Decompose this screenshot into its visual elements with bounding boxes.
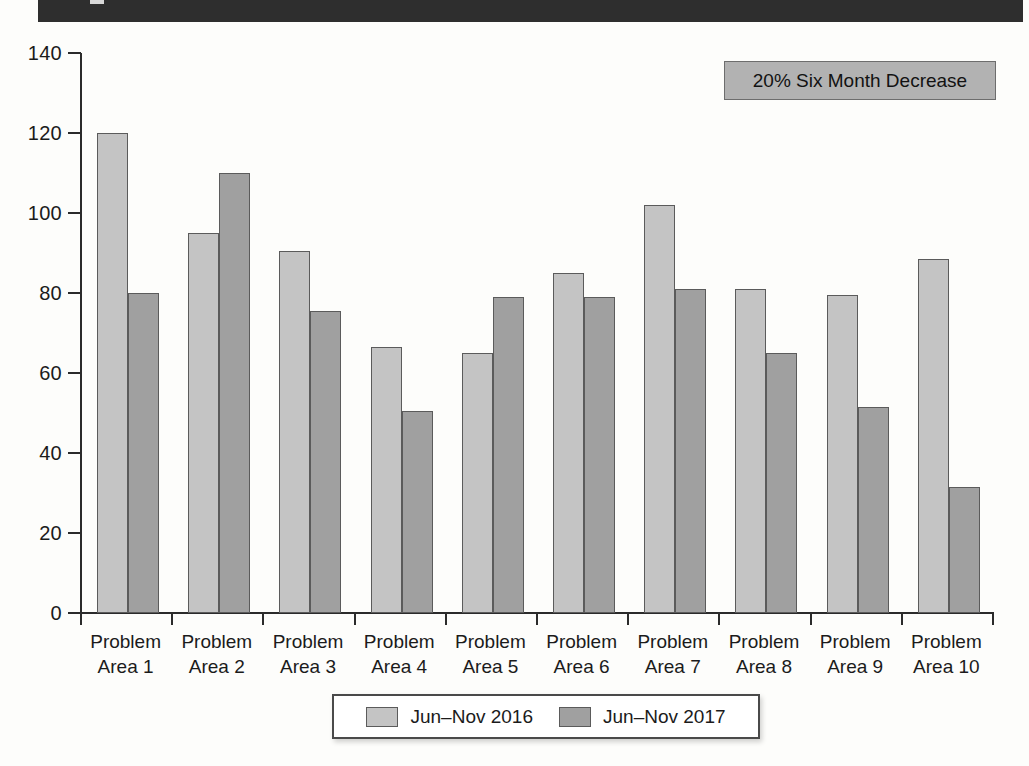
bar [371,347,402,613]
bar [735,289,766,613]
x-axis-tick-mark [80,612,82,625]
x-axis-category-label: ProblemArea 10 [891,629,1001,679]
x-axis-tick-mark [901,612,903,625]
category-label-line: Problem [891,629,1001,654]
chart-legend: Jun–Nov 2016 Jun–Nov 2017 [332,694,760,739]
y-axis-tick-label: 80 [18,282,62,305]
y-axis-tick-mark [68,292,81,294]
bar [827,295,858,613]
bar [310,311,341,613]
bar [402,411,433,613]
bar [219,173,250,613]
y-axis-tick-label: 20 [18,522,62,545]
y-axis-tick-label: 40 [18,442,62,465]
bar [188,233,219,613]
legend-swatch-2016 [366,707,398,727]
bar [766,353,797,613]
y-axis-tick-label: 140 [18,42,62,65]
y-axis-line [80,53,82,614]
bar [675,289,706,613]
legend-item-0[interactable]: Jun–Nov 2016 [366,706,533,728]
x-axis-tick-mark [627,612,629,625]
x-axis-tick-mark [992,612,994,625]
bar [97,133,128,613]
y-axis-tick-mark [68,132,81,134]
y-axis-tick-label: 120 [18,122,62,145]
bar [918,259,949,613]
x-axis-tick-mark [262,612,264,625]
x-axis-tick-mark [536,612,538,625]
y-axis-tick-mark [68,452,81,454]
legend-swatch-2017 [559,707,591,727]
chart-page: 020406080100120140 ProblemArea 1ProblemA… [0,0,1029,766]
bar [493,297,524,613]
category-label-line: Area 10 [891,654,1001,679]
legend-label-2016: Jun–Nov 2016 [410,706,533,728]
annotation-text: 20% Six Month Decrease [753,70,967,92]
bar [462,353,493,613]
annotation-box: 20% Six Month Decrease [724,61,996,100]
y-axis-tick-mark [68,372,81,374]
y-axis-tick-mark [68,212,81,214]
bar [644,205,675,613]
legend-item-1[interactable]: Jun–Nov 2017 [559,706,726,728]
bar [949,487,980,613]
bar [584,297,615,613]
bar [128,293,159,613]
y-axis-tick-label: 0 [18,602,62,625]
x-axis-tick-mark [354,612,356,625]
x-axis-tick-mark [445,612,447,625]
x-axis-tick-mark [171,612,173,625]
bar-chart-plot: 020406080100120140 ProblemArea 1ProblemA… [0,0,1029,766]
bar [279,251,310,613]
bar [553,273,584,613]
x-axis-tick-mark [810,612,812,625]
y-axis-tick-mark [68,532,81,534]
legend-label-2017: Jun–Nov 2017 [603,706,726,728]
x-axis-tick-mark [718,612,720,625]
y-axis-tick-label: 60 [18,362,62,385]
y-axis-tick-mark [68,52,81,54]
y-axis-tick-label: 100 [18,202,62,225]
bar [858,407,889,613]
